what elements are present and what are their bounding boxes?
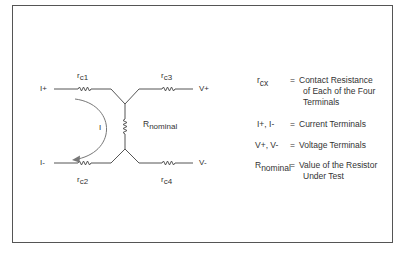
current-arrow-icon — [72, 99, 107, 163]
legend-desc: Voltage Terminals — [299, 140, 366, 151]
resistor-rc2-label: rc2 — [77, 176, 88, 186]
legend-equals: = — [290, 140, 295, 151]
legend-desc: Current Terminals — [299, 119, 366, 130]
legend-equals: = — [290, 75, 295, 86]
legend-desc: Value of the Resistor — [299, 160, 377, 171]
terminal-v-plus-label: V+ — [199, 85, 209, 93]
resistor-rc3-label: rc3 — [161, 72, 172, 82]
wire-i-plus — [54, 87, 125, 104]
legend-equals: = — [290, 160, 295, 171]
resistor-r-nominal-label: Rnominal — [143, 120, 177, 131]
wire-v-plus — [125, 87, 193, 104]
resistor-r-nominal — [123, 104, 127, 149]
resistor-rc4-label: rc4 — [161, 176, 172, 186]
legend-key: I+, I- — [257, 119, 274, 130]
legend-desc: Under Test — [303, 171, 344, 182]
legend-desc: of Each of the Four — [303, 86, 375, 97]
legend-equals: = — [290, 119, 295, 130]
terminal-v-minus-label: V- — [199, 159, 207, 167]
terminal-i-minus-label: I- — [40, 159, 45, 167]
legend-key: rcx — [257, 75, 268, 89]
wire-v-minus — [125, 149, 193, 165]
legend-key: V+, V- — [255, 140, 278, 151]
resistor-rc1-label: rc1 — [77, 72, 88, 82]
legend-key: Rnominal — [255, 160, 291, 174]
wire-i-minus — [54, 149, 125, 165]
legend-desc: Contact Resistance — [299, 75, 373, 86]
legend-desc: Terminals — [303, 97, 339, 108]
current-label: I — [99, 124, 101, 132]
terminal-i-plus-label: I+ — [40, 85, 47, 93]
